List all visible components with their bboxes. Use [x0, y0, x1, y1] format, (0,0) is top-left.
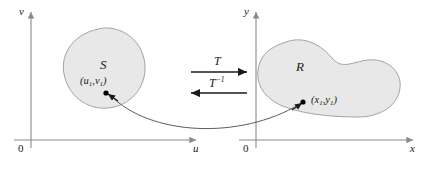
right-origin-label: 0: [243, 143, 249, 154]
v-subscript: 1: [100, 80, 104, 88]
inverse-map-base: T: [209, 76, 216, 90]
v-axis-label: v: [19, 6, 24, 17]
point-uv-label: (u1,v1): [80, 76, 107, 87]
u-subscript: 1: [89, 80, 93, 88]
inverse-map-label: T−1: [209, 76, 225, 89]
transformation-diagram: v u 0 S (u1,v1) y x 0 R (x1,y1) T T−1: [0, 0, 423, 177]
region-r-label: R: [296, 60, 304, 73]
x-axis-label: x: [410, 143, 415, 154]
paren-close: ): [333, 94, 337, 105]
point-xy-label: (x1,y1): [311, 95, 337, 106]
point-uv-dot: [103, 90, 108, 95]
y-subscript: 1: [330, 99, 334, 107]
point-xy-dot: [300, 99, 305, 104]
paren-close: ): [103, 75, 107, 86]
y-axis-label: y: [244, 6, 249, 17]
u-symbol: u: [84, 75, 89, 86]
forward-map-label: T: [214, 55, 221, 67]
inverse-map-exponent: −1: [216, 75, 225, 84]
u-axis-label: u: [193, 143, 199, 154]
x-subscript: 1: [319, 99, 323, 107]
region-s-label: S: [100, 58, 107, 71]
left-origin-label: 0: [18, 143, 24, 154]
v-symbol: v: [95, 75, 100, 86]
